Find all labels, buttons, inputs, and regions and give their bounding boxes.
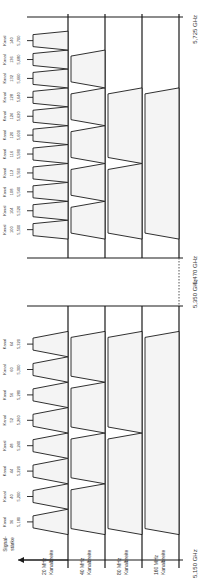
channel-label-kanal: Kanal (2, 35, 7, 45)
frequency-label-5150: 5,150 GHz (192, 549, 198, 578)
channel-label-number: 52 (9, 417, 14, 422)
frequency-label-5725: 5,725 GHz (192, 15, 198, 44)
channel-block (71, 484, 105, 535)
channel-label-kanal: Kanal (2, 111, 7, 121)
signal-strength-label: Signal- (2, 536, 8, 552)
row-40mhz-channels (71, 50, 105, 535)
channel-label-number: 36 (9, 519, 14, 524)
channel-label-frequency: 5,620 (16, 110, 21, 121)
row-label-width: 40 MHz (79, 557, 85, 575)
row-label-kanalbreite: Kanalbreite (86, 549, 92, 575)
channel-label-kanal: Kanal (2, 339, 7, 349)
channel-label-kanal: Kanal (2, 517, 7, 527)
channel-label-kanal: Kanal (2, 206, 7, 216)
channel-label-frequency: 5,300 (16, 364, 21, 375)
channel-label-number: 104 (9, 207, 14, 214)
channel-block (71, 201, 105, 239)
channel-label-frequency: 5,660 (16, 73, 21, 84)
channel-label-kanal: Kanal (2, 187, 7, 197)
channel-label-number: 40 (9, 494, 14, 499)
channel-label-kanal: Kanal (2, 224, 7, 234)
signal-strength-label: stärke (9, 537, 15, 551)
channel-20mhz-shape (33, 408, 68, 433)
channel-label-number: 48 (9, 443, 14, 448)
row-80mhz-channels (108, 88, 142, 535)
channel-block (145, 331, 179, 534)
channel-label-kanal: Kanal (2, 54, 7, 64)
channel-label-frequency: 5,700 (16, 35, 21, 46)
channel-label-number: 100 (9, 226, 14, 233)
channel-label-number: 116 (9, 150, 14, 157)
channel-20mhz-shape (33, 88, 68, 107)
channel-block (145, 88, 179, 239)
row-label-width: 160 MHz (153, 554, 159, 575)
channel-label-kanal: Kanal (2, 130, 7, 140)
signal-strength-axis: Signal-stärke (2, 536, 68, 563)
channel-20mhz-shape (33, 107, 68, 126)
row-20mhz-channels (27, 31, 68, 534)
channel-label-number: 120 (9, 131, 14, 138)
channel-block (108, 433, 142, 535)
channel-20mhz-shape (33, 145, 68, 164)
channel-20mhz-shape (33, 433, 68, 458)
channel-label-number: 124 (9, 112, 14, 119)
channel-label-kanal: Kanal (2, 491, 7, 501)
channel-20mhz-shape (33, 201, 68, 220)
channel-label-kanal: Kanal (2, 390, 7, 400)
channel-label-frequency: 5,220 (16, 465, 21, 476)
channel-label-frequency: 5,560 (16, 167, 21, 178)
channel-label-frequency: 5,180 (16, 516, 21, 527)
channel-label-number: 140 (9, 37, 14, 44)
channel-20mhz-shape (33, 31, 68, 50)
row-labels: 20 MHzKanalbreite40 MHzKanalbreite80 MHz… (41, 549, 166, 575)
channel-label-frequency: 5,600 (16, 129, 21, 140)
channel-label-number: 112 (9, 169, 14, 176)
channel-label-frequency: 5,280 (16, 389, 21, 400)
channel-block (71, 331, 105, 382)
channel-block (71, 382, 105, 433)
frequency-label-5470: 5,470 GHz (192, 256, 198, 285)
channel-label-kanal: Kanal (2, 415, 7, 425)
row-label-width: 80 MHz (116, 557, 122, 575)
channel-20mhz-shape (33, 220, 68, 239)
channel-20mhz-shape (33, 163, 68, 182)
channel-diagram-canvas: 5,150 GHz5,350 GHz5,470 GHz5,725 GHzSign… (0, 0, 204, 578)
channel-20mhz-shape (33, 182, 68, 201)
channel-label-kanal: Kanal (2, 92, 7, 102)
channel-20mhz-shape (33, 458, 68, 483)
channel-block (71, 433, 105, 484)
channel-20mhz-shape (33, 331, 68, 356)
channel-block (108, 163, 142, 239)
channel-label-kanal: Kanal (2, 73, 7, 83)
channel-label-frequency: 5,680 (16, 54, 21, 65)
channel-label-kanal: Kanal (2, 440, 7, 450)
channel-label-frequency: 5,500 (16, 224, 21, 235)
channel-label-frequency: 5,540 (16, 186, 21, 197)
row-label-width: 20 MHz (41, 557, 47, 575)
channel-label-number: 44 (9, 468, 14, 473)
wlan-channel-diagram: 5,150 GHz5,350 GHz5,470 GHz5,725 GHzSign… (0, 0, 204, 578)
channel-label-frequency: 5,200 (16, 491, 21, 502)
channel-label-frequency: 5,640 (16, 92, 21, 103)
channel-label-number: 56 (9, 392, 14, 397)
channel-label-number: 108 (9, 188, 14, 195)
arrow-icon (18, 557, 24, 563)
row-label-kanalbreite: Kanalbreite (123, 549, 129, 575)
channel-20mhz-shape (33, 50, 68, 69)
channel-label-kanal: Kanal (2, 466, 7, 476)
channel-block (71, 88, 105, 126)
channel-block (108, 331, 142, 433)
channel-label-frequency: 5,520 (16, 205, 21, 216)
channel-20mhz-shape (33, 69, 68, 88)
channel-label-number: 60 (9, 367, 14, 372)
channel-label-number: 128 (9, 93, 14, 100)
channel-block (71, 126, 105, 164)
channel-label-kanal: Kanal (2, 149, 7, 159)
channel-label-frequency: 5,260 (16, 415, 21, 426)
channel-20mhz-shape (33, 126, 68, 145)
channel-block (71, 163, 105, 201)
channel-label-kanal: Kanal (2, 168, 7, 178)
channel-label-frequency: 5,240 (16, 440, 21, 451)
channel-label-frequency: 5,580 (16, 148, 21, 159)
channel-20mhz-shape (33, 484, 68, 509)
